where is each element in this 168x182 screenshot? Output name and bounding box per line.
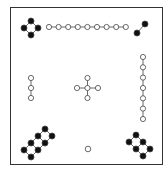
group-bottom-left-8 bbox=[21, 126, 55, 160]
lo-shu-diagram bbox=[0, 0, 168, 182]
group-middle-left-3 bbox=[28, 75, 33, 100]
group-top-left-4 bbox=[21, 18, 41, 38]
group-bottom-center-1 bbox=[85, 146, 91, 152]
group-top-right-2 bbox=[134, 21, 148, 36]
group-center-5 bbox=[74, 75, 100, 100]
group-middle-right-7 bbox=[140, 54, 145, 121]
group-bottom-right-6 bbox=[126, 132, 153, 159]
group-top-center-9 bbox=[46, 24, 128, 29]
